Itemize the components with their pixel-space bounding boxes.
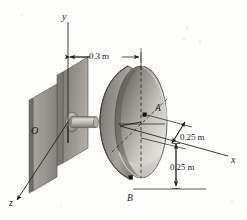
z-axis-label: z: [9, 198, 13, 208]
y-axis-label: y: [62, 12, 66, 22]
figure-container: y x z O A B 0.3 m 0.25 m 0.25 m: [0, 0, 247, 220]
origin-label: O: [31, 126, 38, 136]
dimension-label-0-25m-vertical: 0.25 m: [170, 163, 194, 172]
x-axis-label: x: [231, 155, 235, 165]
dimension-label-0-25m-diagonal: 0.25 m: [180, 133, 204, 142]
parabolic-dish: [100, 66, 167, 178]
figure-drawing: [0, 0, 247, 220]
point-b-label: B: [127, 194, 133, 204]
point-a-label: A: [155, 104, 161, 114]
dimension-label-0-3m: 0.3 m: [89, 52, 109, 61]
